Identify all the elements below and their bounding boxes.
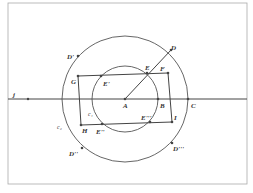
point-G (77, 75, 80, 78)
label-D: D (170, 44, 176, 52)
label-I: I (173, 114, 177, 122)
label-E: E (144, 64, 150, 72)
label-E3: E''' (140, 114, 152, 122)
label-H: H (81, 127, 88, 135)
point-H (80, 124, 83, 127)
geometry-diagram: j A B C D D' D'' D''' E E' E'' E''' F G … (0, 0, 253, 193)
point-I (171, 121, 174, 124)
label-j: j (12, 91, 15, 99)
label-A: A (122, 102, 128, 110)
point-on-j (27, 98, 29, 100)
label-E1: E' (102, 80, 110, 88)
point-F (167, 72, 170, 75)
diagram-frame (8, 3, 247, 184)
point-D2 (81, 147, 84, 150)
point-D1 (77, 55, 80, 58)
point-E1 (100, 75, 103, 78)
label-G: G (71, 78, 76, 86)
label-E2: E'' (95, 128, 105, 136)
label-D2: D'' (68, 150, 78, 158)
label-D3: D''' (172, 145, 184, 153)
label-D1: D' (66, 53, 74, 61)
point-B (157, 98, 160, 101)
label-c2: c₂ (57, 124, 62, 130)
point-E (146, 72, 149, 75)
label-B: B (159, 102, 165, 110)
label-c1: c₁ (88, 111, 93, 117)
point-A (124, 98, 127, 101)
point-D3 (171, 142, 174, 145)
point-C (187, 98, 190, 101)
point-E2 (101, 123, 104, 126)
label-F: F (160, 65, 165, 73)
label-C: C (191, 102, 196, 110)
